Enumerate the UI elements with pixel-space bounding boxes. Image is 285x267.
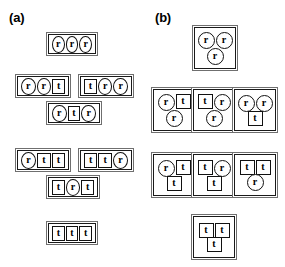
genotype-group-inner: trr bbox=[193, 89, 235, 131]
allele-token-t: t bbox=[176, 94, 191, 109]
genotype-row-top: rr bbox=[238, 95, 273, 112]
allele-token-r: r bbox=[37, 78, 52, 95]
allele-token-t: t bbox=[52, 180, 65, 195]
genotype-group: rrt bbox=[232, 87, 278, 133]
allele-token-t: t bbox=[79, 226, 92, 241]
genotype-group-inner: trr bbox=[80, 76, 132, 96]
allele-token-t: t bbox=[66, 226, 79, 241]
allele-token-t: t bbox=[207, 237, 222, 252]
allele-token-t: t bbox=[198, 160, 213, 175]
panel-label-a: (a) bbox=[9, 11, 24, 24]
allele-token-r: r bbox=[214, 160, 231, 177]
genotype-row-top: tt bbox=[240, 160, 271, 175]
genotype-row-bottom: t bbox=[207, 237, 222, 252]
figure-container: (a)rrrrrttrrrtrrttttrtrtttt(b)rrrrtrtrrr… bbox=[0, 0, 285, 267]
allele-token-r: r bbox=[81, 105, 96, 122]
allele-token-r: r bbox=[21, 78, 36, 95]
allele-token-t: t bbox=[215, 223, 230, 238]
allele-token-t: t bbox=[248, 111, 263, 126]
allele-token-t: t bbox=[68, 106, 81, 121]
allele-token-t: t bbox=[198, 94, 213, 109]
genotype-group-inner: rrr bbox=[194, 27, 236, 69]
genotype-group-inner: trt bbox=[48, 177, 98, 197]
genotype-group: ttr bbox=[78, 148, 134, 172]
genotype-group-inner: rtr bbox=[153, 89, 195, 131]
allele-token-t: t bbox=[52, 226, 65, 241]
panel-b: (b)rrrrtrtrrrrtrtttrtttrttt bbox=[143, 0, 285, 267]
genotype-row-top: rt bbox=[158, 94, 191, 111]
allele-token-r: r bbox=[158, 160, 175, 177]
allele-token-t: t bbox=[240, 160, 255, 175]
allele-token-r: r bbox=[206, 110, 223, 127]
genotype-group: rrr bbox=[192, 25, 238, 71]
genotype-group-inner: rrt bbox=[234, 89, 276, 131]
allele-token-r: r bbox=[247, 174, 264, 191]
allele-token-t: t bbox=[84, 79, 97, 94]
genotype-group: rrt bbox=[15, 74, 71, 98]
genotype-group-inner: rtt bbox=[17, 150, 69, 170]
allele-token-t: t bbox=[176, 160, 191, 175]
genotype-row-bottom: t bbox=[248, 111, 263, 126]
allele-token-r: r bbox=[113, 78, 128, 95]
genotype-row-bottom: t bbox=[167, 176, 182, 191]
genotype-row-top: tt bbox=[199, 223, 230, 238]
genotype-group-inner: ttt bbox=[48, 223, 96, 243]
genotype-group-inner: trt bbox=[193, 154, 235, 196]
genotype-row-top: rr bbox=[198, 32, 233, 49]
genotype-group: trr bbox=[191, 87, 237, 133]
allele-token-t: t bbox=[199, 223, 214, 238]
panel-a: (a)rrrrrttrrrtrrttttrtrtttt bbox=[0, 0, 143, 267]
allele-token-t: t bbox=[167, 176, 182, 191]
allele-token-t: t bbox=[84, 153, 97, 168]
genotype-row-top: tr bbox=[198, 160, 231, 177]
genotype-row-bottom: r bbox=[206, 110, 223, 127]
allele-token-r: r bbox=[207, 48, 224, 65]
allele-token-r: r bbox=[158, 94, 175, 111]
genotype-group: ttr bbox=[232, 152, 278, 198]
genotype-group-inner: rrr bbox=[48, 34, 96, 54]
genotype-row-top: rt bbox=[158, 160, 191, 177]
allele-token-r: r bbox=[66, 36, 79, 53]
genotype-group-inner: rtt bbox=[153, 154, 195, 196]
allele-token-r: r bbox=[198, 32, 215, 49]
genotype-group-inner: ttt bbox=[193, 216, 235, 258]
allele-token-r: r bbox=[66, 179, 80, 196]
allele-token-r: r bbox=[98, 78, 113, 95]
genotype-group: rtr bbox=[46, 101, 102, 125]
genotype-row-top: tr bbox=[198, 94, 231, 111]
allele-token-r: r bbox=[113, 152, 128, 169]
genotype-row-bottom: t bbox=[207, 176, 222, 191]
genotype-group: trr bbox=[78, 74, 134, 98]
genotype-group-inner: ttr bbox=[234, 154, 276, 196]
allele-token-t: t bbox=[52, 153, 65, 168]
genotype-group: rrr bbox=[46, 32, 98, 56]
genotype-group: trt bbox=[191, 152, 237, 198]
allele-token-r: r bbox=[52, 105, 67, 122]
allele-token-r: r bbox=[21, 152, 36, 169]
allele-token-t: t bbox=[81, 180, 94, 195]
allele-token-r: r bbox=[256, 95, 273, 112]
allele-token-t: t bbox=[52, 79, 65, 94]
allele-token-r: r bbox=[214, 94, 231, 111]
allele-token-r: r bbox=[238, 95, 255, 112]
genotype-group: ttt bbox=[191, 214, 237, 260]
genotype-group: trt bbox=[46, 175, 100, 199]
allele-token-t: t bbox=[98, 153, 111, 168]
genotype-row-bottom: r bbox=[166, 110, 183, 127]
genotype-group: ttt bbox=[46, 221, 98, 245]
genotype-group-inner: ttr bbox=[80, 150, 132, 170]
allele-token-r: r bbox=[166, 110, 183, 127]
allele-token-t: t bbox=[256, 160, 271, 175]
panel-label-b: (b) bbox=[155, 11, 171, 24]
allele-token-r: r bbox=[216, 32, 233, 49]
allele-token-r: r bbox=[79, 36, 92, 53]
genotype-group-inner: rtr bbox=[48, 103, 100, 123]
genotype-group-inner: rrt bbox=[17, 76, 69, 96]
allele-token-t: t bbox=[37, 153, 50, 168]
genotype-row-bottom: r bbox=[247, 174, 264, 191]
allele-token-r: r bbox=[52, 36, 65, 53]
allele-token-t: t bbox=[207, 176, 222, 191]
genotype-row-bottom: r bbox=[207, 48, 224, 65]
genotype-group: rtt bbox=[15, 148, 71, 172]
